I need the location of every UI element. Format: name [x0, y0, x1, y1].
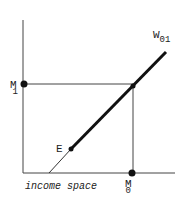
- m0-label: M0: [125, 178, 132, 196]
- intersection-dot: [131, 84, 136, 89]
- income-space-label: income space: [25, 181, 97, 192]
- w01-label: W01: [153, 29, 170, 45]
- m0-dot: [129, 170, 136, 177]
- e-dot: [69, 147, 74, 152]
- diagram-canvas: W01 M1 E M0 income space: [0, 0, 189, 201]
- w01-line-thick: [71, 52, 166, 149]
- m1-dot: [21, 81, 28, 88]
- m1-label: M1: [10, 79, 18, 97]
- e-label: E: [56, 143, 63, 155]
